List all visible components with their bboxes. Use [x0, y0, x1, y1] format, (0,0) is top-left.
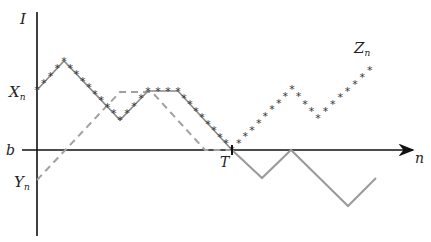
svg-text:*: *: [309, 105, 315, 118]
svg-text:*: *: [117, 114, 123, 127]
svg-text:*: *: [345, 85, 351, 98]
svg-text:*: *: [330, 98, 336, 111]
svg-text:*: *: [86, 81, 92, 94]
svg-text:*: *: [61, 55, 67, 68]
svg-text:*: *: [283, 90, 289, 103]
y-axis-label: I: [19, 10, 27, 28]
svg-text:*: *: [352, 78, 358, 91]
svg-text:*: *: [92, 88, 98, 101]
svg-text:*: *: [165, 85, 171, 98]
svg-text:*: *: [138, 92, 144, 105]
svg-text:*: *: [41, 77, 47, 90]
svg-text:*: *: [276, 97, 282, 110]
z-n-label: Zn: [353, 39, 370, 58]
y-n-label: Yn: [14, 173, 30, 192]
svg-text:*: *: [243, 130, 249, 143]
svg-text:*: *: [124, 107, 130, 120]
svg-text:*: *: [34, 84, 40, 97]
svg-text:*: *: [55, 62, 61, 75]
svg-text:*: *: [74, 68, 80, 81]
svg-text:*: *: [249, 124, 255, 137]
svg-text:*: *: [269, 103, 275, 116]
svg-text:*: *: [315, 112, 321, 125]
svg-text:*: *: [145, 85, 151, 98]
svg-text:*: *: [367, 64, 373, 77]
svg-text:*: *: [236, 137, 242, 150]
x-n-star-markers: *****************************: [34, 55, 229, 150]
svg-text:*: *: [289, 83, 295, 96]
svg-text:*: *: [302, 98, 308, 111]
svg-text:*: *: [99, 94, 105, 107]
svg-text:*: *: [256, 117, 262, 130]
svg-text:*: *: [323, 105, 329, 118]
coupling-diagram: ***************************** **********…: [0, 0, 431, 242]
svg-text:*: *: [296, 90, 302, 103]
svg-text:*: *: [80, 75, 86, 88]
svg-text:*: *: [337, 91, 343, 104]
y-n-after-t-path: [232, 150, 376, 206]
x-n-label: Xn: [8, 83, 26, 102]
svg-text:*: *: [155, 85, 161, 98]
svg-text:*: *: [67, 62, 73, 75]
z-n-star-markers: *********************: [229, 64, 373, 157]
svg-text:*: *: [360, 71, 366, 84]
x-axis-label: n: [415, 150, 424, 166]
svg-text:*: *: [131, 100, 137, 113]
b-label: b: [6, 142, 15, 158]
svg-text:*: *: [48, 70, 54, 83]
svg-text:*: *: [111, 107, 117, 120]
svg-text:*: *: [105, 101, 111, 114]
svg-text:*: *: [263, 110, 269, 123]
